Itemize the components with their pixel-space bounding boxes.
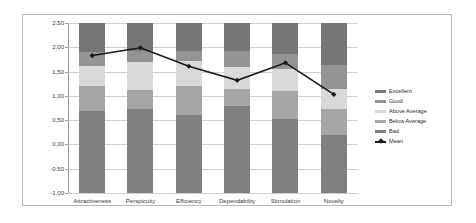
bar-segment-excellent[interactable] xyxy=(79,23,105,52)
bar-segment-bad[interactable] xyxy=(321,135,347,193)
bar-segment-below-average[interactable] xyxy=(127,90,153,109)
legend-swatch-icon xyxy=(375,110,386,113)
x-axis-category-label: Novelty xyxy=(324,198,344,204)
bar-segment-good[interactable] xyxy=(176,51,202,61)
bar-segment-above-average[interactable] xyxy=(79,66,105,86)
bar-segment-good[interactable] xyxy=(272,54,298,70)
y-axis-tick-label: 0,00 xyxy=(52,141,64,147)
bar-segment-bad[interactable] xyxy=(224,106,250,193)
bar-segment-below-average[interactable] xyxy=(321,109,347,135)
y-axis-tick-label: 1,00 xyxy=(52,93,64,99)
legend-label: Excellent xyxy=(389,87,412,96)
stacked-bar[interactable] xyxy=(79,23,105,193)
y-axis-tick-label: 1,50 xyxy=(52,69,64,75)
bar-segment-below-average[interactable] xyxy=(272,91,298,119)
legend-item-below-average[interactable]: Below Average xyxy=(375,117,451,126)
legend-label: Bad xyxy=(389,127,399,136)
y-axis-tick-label: -1,00 xyxy=(50,190,64,196)
y-axis-tick-label: 2,50 xyxy=(52,20,64,26)
bar-segment-below-average[interactable] xyxy=(79,86,105,111)
x-axis-category-label: Stimulation xyxy=(271,198,301,204)
bar-group: Attractiveness xyxy=(68,23,116,193)
bar-segment-excellent[interactable] xyxy=(224,23,250,51)
legend-item-above-average[interactable]: Above Average xyxy=(375,107,451,116)
plot-area: 2,502,001,501,000,500,00-0,50-1,00 Attra… xyxy=(68,23,358,193)
bar-group: Perspicuity xyxy=(116,23,164,193)
legend-swatch-icon xyxy=(375,90,386,93)
legend-item-mean[interactable]: Mean xyxy=(375,137,451,146)
legend-swatch-icon xyxy=(375,120,386,123)
bar-segment-good[interactable] xyxy=(224,51,250,67)
bar-segment-excellent[interactable] xyxy=(127,23,153,51)
legend-item-good[interactable]: Good xyxy=(375,97,451,106)
bar-segment-bad[interactable] xyxy=(176,115,202,193)
stacked-bar[interactable] xyxy=(176,23,202,193)
x-axis-category-label: Efficiency xyxy=(176,198,202,204)
stacked-bar[interactable] xyxy=(272,23,298,193)
x-axis-category-label: Dependability xyxy=(219,198,255,204)
gridline xyxy=(68,193,358,194)
y-axis-tick-label: 0,50 xyxy=(52,117,64,123)
stacked-bar[interactable] xyxy=(224,23,250,193)
legend-item-bad[interactable]: Bad xyxy=(375,127,451,136)
bar-group: Dependability xyxy=(213,23,261,193)
bar-segment-bad[interactable] xyxy=(272,119,298,193)
chart-frame: 2,502,001,501,000,500,00-0,50-1,00 Attra… xyxy=(22,14,452,206)
legend-label: Good xyxy=(389,97,403,106)
chart-legend: ExcellentGoodAbove AverageBelow AverageB… xyxy=(375,87,451,147)
bar-group: Efficiency xyxy=(165,23,213,193)
bar-group: Stimulation xyxy=(261,23,309,193)
bar-segment-good[interactable] xyxy=(79,52,105,66)
y-axis-tickmark xyxy=(65,193,68,194)
x-axis-category-label: Attractiveness xyxy=(73,198,111,204)
stacked-bar[interactable] xyxy=(321,23,347,193)
y-axis-tick-label: -0,50 xyxy=(50,166,64,172)
legend-label: Below Average xyxy=(389,117,426,126)
legend-label: Above Average xyxy=(389,107,427,116)
bar-segment-below-average[interactable] xyxy=(176,86,202,115)
legend-swatch-icon xyxy=(375,100,386,103)
bar-segment-excellent[interactable] xyxy=(272,23,298,54)
bar-segment-bad[interactable] xyxy=(79,111,105,193)
bar-segment-excellent[interactable] xyxy=(321,23,347,65)
legend-label: Mean xyxy=(389,137,403,146)
bar-segment-above-average[interactable] xyxy=(176,61,202,86)
bar-segment-below-average[interactable] xyxy=(224,89,250,106)
bar-group: Novelty xyxy=(310,23,358,193)
legend-swatch-icon xyxy=(375,130,386,133)
x-axis-category-label: Perspicuity xyxy=(126,198,155,204)
legend-item-excellent[interactable]: Excellent xyxy=(375,87,451,96)
bar-segment-good[interactable] xyxy=(321,65,347,89)
bar-segment-excellent[interactable] xyxy=(176,23,202,51)
bar-segment-above-average[interactable] xyxy=(321,89,347,109)
stacked-bar[interactable] xyxy=(127,23,153,193)
legend-swatch-icon xyxy=(375,141,386,143)
bar-segment-above-average[interactable] xyxy=(127,62,153,90)
bar-segment-good[interactable] xyxy=(127,51,153,62)
bar-segment-above-average[interactable] xyxy=(224,67,250,89)
bar-segment-above-average[interactable] xyxy=(272,69,298,91)
bar-segment-bad[interactable] xyxy=(127,109,153,193)
y-axis-tick-label: 2,00 xyxy=(52,44,64,50)
